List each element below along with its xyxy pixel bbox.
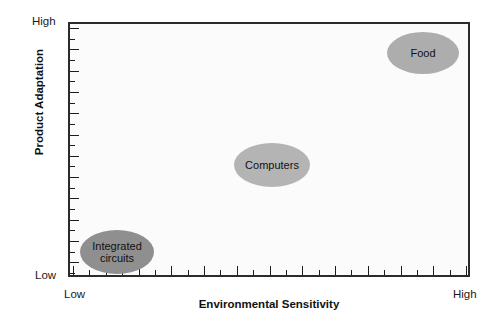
bubble-chart: Product Adaptation High Low Low High Env… xyxy=(0,0,498,331)
y-axis-tick xyxy=(70,177,79,178)
data-point-bubble: Computers xyxy=(234,143,310,187)
data-point-bubble: Food xyxy=(387,32,459,74)
data-points-layer: Integrated circuitsComputersFood xyxy=(70,24,468,275)
x-axis-tick xyxy=(237,266,238,275)
y-axis-ticks xyxy=(70,24,468,275)
x-axis-tick xyxy=(220,270,221,275)
x-axis-tick xyxy=(171,266,172,275)
x-axis-tick xyxy=(384,270,385,275)
y-axis-tick xyxy=(70,49,79,50)
x-axis-tick xyxy=(335,266,336,275)
data-point-label: Computers xyxy=(245,159,299,172)
y-axis-tick xyxy=(70,252,75,253)
y-axis-tick xyxy=(70,71,79,72)
x-axis-tick xyxy=(286,270,287,275)
y-axis-tick xyxy=(70,220,79,221)
y-axis-tick xyxy=(70,188,75,189)
x-axis-tick xyxy=(450,270,451,275)
y-axis-tick xyxy=(70,28,79,29)
y-axis-tick xyxy=(70,273,75,274)
x-axis-tick xyxy=(466,266,467,275)
x-axis-tick xyxy=(270,266,271,275)
x-axis-tick xyxy=(139,266,140,275)
x-axis-tick xyxy=(204,266,205,275)
y-axis-tick xyxy=(70,103,75,104)
x-axis-tick xyxy=(106,266,107,275)
y-axis-tick xyxy=(70,113,79,114)
y-axis-title: Product Adaptation xyxy=(33,22,45,182)
y-axis-tick xyxy=(70,92,79,93)
x-axis-tick xyxy=(368,266,369,275)
x-axis-tick xyxy=(188,270,189,275)
data-point-label: Food xyxy=(410,47,435,60)
y-axis-low-label: Low xyxy=(35,269,56,281)
y-axis-tick xyxy=(70,39,75,40)
x-axis-title: Environmental Sensitivity xyxy=(68,298,470,310)
x-axis-tick xyxy=(351,270,352,275)
y-axis-tick xyxy=(70,124,75,125)
y-axis-tick xyxy=(70,262,79,263)
x-axis-tick xyxy=(302,266,303,275)
y-axis-tick xyxy=(70,230,75,231)
data-point-label: Integrated circuits xyxy=(80,240,154,265)
data-point-bubble: Integrated circuits xyxy=(80,230,154,274)
y-axis-tick xyxy=(70,81,75,82)
y-axis-tick xyxy=(70,241,79,242)
x-axis-tick xyxy=(319,270,320,275)
plot-area: Integrated circuitsComputersFood xyxy=(68,22,470,277)
y-axis-tick xyxy=(70,209,75,210)
y-axis-tick xyxy=(70,198,79,199)
y-axis-tick xyxy=(70,166,75,167)
x-axis-tick xyxy=(73,266,74,275)
x-axis-tick xyxy=(89,270,90,275)
y-axis-tick xyxy=(70,145,75,146)
y-axis-high-label: High xyxy=(32,15,56,27)
x-axis-tick xyxy=(122,270,123,275)
x-axis-tick xyxy=(433,266,434,275)
x-axis-tick xyxy=(155,270,156,275)
y-axis-tick xyxy=(70,135,79,136)
x-axis-ticks xyxy=(70,24,468,275)
y-axis-tick xyxy=(70,60,75,61)
x-axis-tick xyxy=(253,270,254,275)
x-axis-tick xyxy=(401,266,402,275)
x-axis-tick xyxy=(417,270,418,275)
y-axis-tick xyxy=(70,156,79,157)
